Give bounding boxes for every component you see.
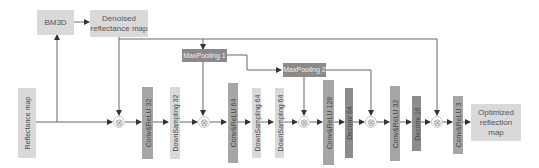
maxpooling-2-box: MaxPooling 2 — [283, 63, 326, 77]
maxpooling-1-label: MaxPooling 1 — [183, 51, 225, 61]
layer-label: Conv&ReLU 32 — [392, 99, 399, 148]
multiply-icon: ⊗ — [433, 117, 441, 128]
layer-deconv-16: Deconv 16 — [412, 96, 421, 151]
layer-conv-relu-3: Conv&ReLU 3 — [453, 96, 463, 154]
layer-conv-relu-128: Conv&ReLU 128 — [323, 80, 334, 165]
optimized-map-label: Optimized reflection map — [471, 108, 521, 138]
layer-label: Conv&ReLU 32 — [144, 99, 151, 148]
denoised-map-box: Denoised reflectance map — [90, 10, 148, 37]
layer-conv-relu-32-b: Conv&ReLU 32 — [390, 86, 400, 161]
layer-label: Conv&ReLU 3 — [455, 103, 462, 148]
multiply-node-4: ⊗ — [365, 116, 377, 128]
layer-deconv-64: Deconv 64 — [345, 88, 353, 158]
layer-conv-relu-32: Conv&ReLU 32 — [142, 87, 153, 159]
layer-downsampling-64-a: DownSampling 64 — [252, 88, 261, 158]
multiply-node-2: ⊗ — [198, 116, 210, 128]
layer-label: DownSampling 32 — [172, 95, 179, 152]
reflectance-map-input: Reflectance map — [18, 88, 36, 158]
network-diagram: Reflectance map BM3D Denoised reflectanc… — [0, 0, 539, 168]
bm3d-label: BM3D — [44, 18, 66, 28]
multiply-node-3: ⊗ — [298, 116, 310, 128]
multiply-icon: ⊗ — [115, 117, 123, 128]
layer-label: DownSampling 64 — [253, 95, 260, 152]
maxpooling-2-label: MaxPooling 2 — [283, 65, 325, 75]
multiply-node-1: ⊗ — [113, 116, 125, 128]
multiply-icon: ⊗ — [367, 117, 375, 128]
layer-label: Deconv 64 — [346, 106, 353, 139]
denoised-map-label: Denoised reflectance map — [90, 14, 148, 34]
maxpooling-1-box: MaxPooling 1 — [182, 49, 227, 62]
bm3d-box: BM3D — [37, 10, 74, 35]
reflectance-map-label: Reflectance map — [24, 97, 31, 150]
multiply-node-5: ⊗ — [431, 116, 443, 128]
layer-conv-relu-64: Conv&ReLU 64 — [228, 83, 238, 163]
layer-downsampling-32: DownSampling 32 — [170, 87, 180, 159]
layer-label: Conv&ReLU 64 — [230, 99, 237, 148]
optimized-map-output: Optimized reflection map — [471, 104, 521, 141]
layer-label: DownSampling 64 — [276, 95, 283, 152]
layer-label: Conv&ReLU 128 — [325, 96, 332, 149]
layer-downsampling-64-b: DownSampling 64 — [275, 88, 284, 158]
multiply-icon: ⊗ — [200, 117, 208, 128]
layer-label: Deconv 16 — [413, 107, 420, 140]
multiply-icon: ⊗ — [300, 117, 308, 128]
